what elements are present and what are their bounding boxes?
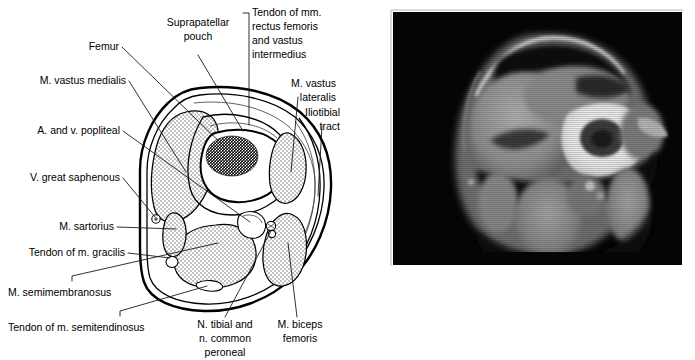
label-suprapatellar-pouch-line2: pouch [184, 30, 213, 42]
label-tibial-peroneal-line3: peroneal [205, 346, 246, 358]
label-suprapatellar-pouch-line1: Suprapatellar [167, 16, 230, 28]
label-iliotibial-tract-line2: tract [320, 120, 341, 132]
label-biceps-femoris-line1: M. biceps [278, 318, 323, 330]
label-biceps-femoris-line2: femoris [283, 332, 317, 344]
figure-root: Femur Suprapatellar pouch Tendon of mm. … [0, 0, 695, 360]
popliteal-artery-and-vein [238, 212, 266, 239]
label-tibial-peroneal-line2: n. common [199, 332, 251, 344]
label-popliteal-vessels: A. and v. popliteal [37, 124, 120, 136]
label-vastus-lateralis-line2: lateralis [300, 91, 336, 103]
label-tendon-rectus-femoris-line2: rectus femoris [252, 20, 318, 32]
mri-scanline-texture [393, 12, 682, 265]
label-tendon-rectus-femoris-line4: intermedius [252, 48, 306, 60]
label-semitendinosus-tendon: Tendon of m. semitendinosus [8, 321, 145, 333]
label-great-saphenous: V. great saphenous [30, 171, 120, 183]
label-gracilis-tendon: Tendon of m. gracilis [29, 246, 125, 258]
muscle-vastus-lateralis [269, 133, 306, 203]
label-femur: Femur [89, 40, 120, 52]
vein-great-saphenous [152, 215, 160, 223]
mri-content [393, 12, 682, 280]
muscle-sartorius [163, 213, 186, 257]
anatomical-diagram-panel: Femur Suprapatellar pouch Tendon of mm. … [0, 0, 380, 360]
label-sartorius: M. sartorius [59, 220, 114, 232]
mri-svg [380, 0, 695, 360]
label-semimembranosus: M. semimembranosus [8, 286, 111, 298]
label-tendon-rectus-femoris-line1: Tendon of mm. [252, 6, 321, 18]
label-vastus-medialis: M. vastus medialis [40, 74, 126, 86]
label-vastus-lateralis-line1: M. vastus [291, 77, 336, 89]
mr-image-panel [380, 0, 695, 360]
label-iliotibial-tract-line1: Iliotibial [305, 106, 340, 118]
diagram-svg: Femur Suprapatellar pouch Tendon of mm. … [0, 0, 380, 360]
label-tibial-peroneal-line1: N. tibial and [197, 318, 253, 330]
label-tendon-rectus-femoris-line3: and vastus [252, 34, 303, 46]
